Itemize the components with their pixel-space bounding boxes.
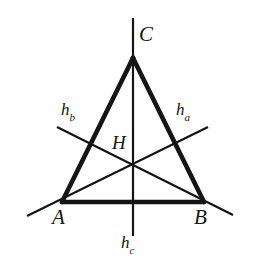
- geometry-figure: A B C H ha hb hc: [0, 0, 256, 274]
- vertex-label-b: B: [194, 207, 207, 228]
- altitude-label-h-a: ha: [176, 101, 190, 121]
- altitude-label-h-c-base: h: [121, 233, 130, 252]
- altitude-label-h-b-base: h: [61, 100, 70, 119]
- altitude-label-h-b-subscript: b: [70, 111, 76, 123]
- orthocenter-label-h: H: [112, 133, 126, 152]
- triangle-side-bc: [133, 58, 204, 202]
- altitude-label-h-c: hc: [121, 234, 134, 254]
- altitude-label-h-a-base: h: [176, 100, 185, 119]
- altitude-label-h-c-subscript: c: [130, 244, 135, 256]
- vertex-c-point: [131, 56, 136, 61]
- vertex-label-a: A: [52, 207, 65, 228]
- altitude-label-h-a-subscript: a: [185, 111, 191, 123]
- vertex-label-c: C: [139, 24, 153, 45]
- altitude-label-h-b: hb: [61, 101, 75, 121]
